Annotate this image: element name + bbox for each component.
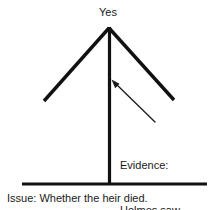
claim-label: Yes bbox=[99, 6, 117, 19]
argument-diagram-canvas bbox=[0, 0, 220, 210]
issue-caption: Issue: Whether the heir died. bbox=[7, 192, 148, 205]
right-support-arm bbox=[109, 28, 174, 100]
evidence-pointer-arrow bbox=[112, 80, 156, 123]
evidence-line-1: Evidence: bbox=[120, 158, 180, 173]
evidence-pointer-shaft bbox=[115, 83, 155, 122]
left-support-arm bbox=[44, 28, 109, 101]
